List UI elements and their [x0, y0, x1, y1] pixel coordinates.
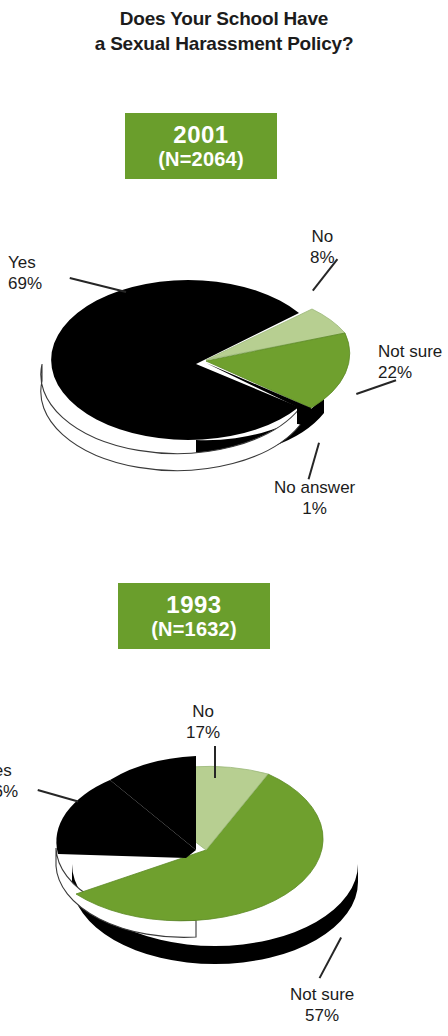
callout-2001-no: No 8%	[310, 226, 335, 268]
callout-2001-yes-name: Yes	[8, 252, 42, 273]
page-title-line-2: a Sexual Harassment Policy?	[0, 31, 448, 56]
year-badge-1993-year: 1993	[166, 592, 221, 618]
pie-chart-1993-svg	[0, 680, 448, 980]
callout-1993-not-sure-value: 57%	[290, 1005, 354, 1026]
page-title-line-1: Does Your School Have	[0, 6, 448, 31]
callout-2001-not-sure: Not sure 22%	[378, 341, 442, 383]
year-badge-2001-sample-size: (N=2064)	[158, 148, 244, 170]
callout-2001-yes-value: 69%	[8, 273, 42, 294]
callout-2001-yes: Yes 69%	[8, 252, 42, 294]
callout-2001-no-answer: No answer 1%	[274, 477, 355, 519]
year-badge-2001-year: 2001	[173, 122, 228, 148]
callout-1993-not-sure: Not sure 57%	[290, 984, 354, 1026]
callout-1993-no-value: 17%	[186, 722, 220, 743]
pie-chart-1993	[0, 680, 448, 980]
year-badge-1993: 1993 (N=1632)	[118, 583, 270, 649]
callout-1993-yes: Yes 26%	[0, 760, 18, 802]
callout-2001-no-answer-name: No answer	[274, 477, 355, 498]
page-title: Does Your School Have a Sexual Harassmen…	[0, 6, 448, 56]
callout-1993-no: No 17%	[186, 701, 220, 743]
callout-2001-no-value: 8%	[310, 247, 335, 268]
callout-2001-not-sure-value: 22%	[378, 362, 442, 383]
callout-2001-no-name: No	[310, 226, 335, 247]
year-badge-2001: 2001 (N=2064)	[125, 113, 277, 179]
slice-no-answer-side	[297, 407, 311, 425]
callout-1993-no-name: No	[186, 701, 220, 722]
callout-2001-no-answer-value: 1%	[274, 498, 355, 519]
callout-1993-yes-value: 26%	[0, 781, 18, 802]
leader-line-1993-no	[214, 746, 216, 778]
callout-1993-not-sure-name: Not sure	[290, 984, 354, 1005]
callout-2001-not-sure-name: Not sure	[378, 341, 442, 362]
year-badge-1993-sample-size: (N=1632)	[151, 618, 237, 640]
callout-1993-yes-name: Yes	[0, 760, 18, 781]
